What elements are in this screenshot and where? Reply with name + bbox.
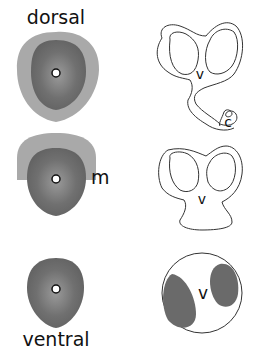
v-label-1: v [196,66,204,82]
m-label: m [91,166,110,188]
c-label: c [224,114,232,130]
v-label-3: v [198,283,208,303]
marker-o-circle [52,285,60,293]
dorsal-section [17,32,99,122]
middle-section [17,133,96,216]
marker-o-circle [52,69,60,77]
dorsal-label: dorsal [27,6,85,28]
ventral-section [27,258,84,328]
ventral-label: ventral [22,328,89,350]
outline-section-2 [159,146,243,230]
marker-o-circle [52,175,60,183]
diagram: dorsal v c m v ventral v [0,0,259,351]
v-label-2: v [198,191,206,207]
